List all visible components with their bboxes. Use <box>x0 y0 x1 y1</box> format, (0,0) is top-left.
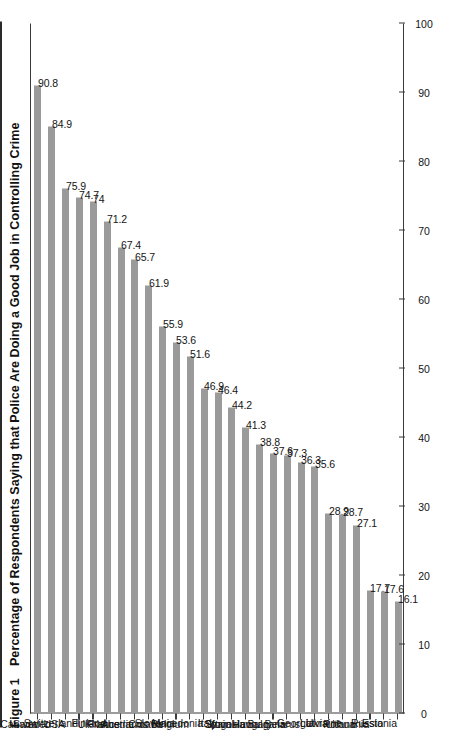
bar-rect <box>62 188 69 712</box>
bar-rect <box>173 342 180 712</box>
bars-layer: 90.884.975.974.77471.267.465.761.955.953… <box>31 23 403 712</box>
bar-estonia: 16.1 <box>395 22 402 712</box>
bar-rect <box>284 455 291 712</box>
bar-value-label: 16.1 <box>398 592 418 604</box>
bar-rect <box>159 326 166 712</box>
figure-caption: Percentage of Respondents Saying that Po… <box>8 122 22 666</box>
bar-finland: 71.2 <box>104 22 111 712</box>
bar-rect <box>353 525 360 712</box>
bar-slovakia: 41.3 <box>242 22 249 712</box>
bar-latvia: 28.9 <box>325 22 332 712</box>
bar-rect <box>395 601 402 712</box>
bar-spain: 44.2 <box>228 22 235 712</box>
bar-rect <box>76 197 83 712</box>
value-tick-label: 70 <box>418 224 430 236</box>
bar-rect <box>131 259 138 712</box>
bar-lithuania: 17.7 <box>367 22 374 712</box>
rotated-figure-canvas: Figure 1Percentage of Respondents Saying… <box>0 0 454 745</box>
bar-macedonia: 46.9 <box>201 22 208 712</box>
bar-rect <box>339 514 346 712</box>
bar-italy: 46.4 <box>215 22 222 712</box>
bar-yugoslavia: 38.8 <box>256 22 263 712</box>
bar-croatia: 55.9 <box>159 22 166 712</box>
bar-rect <box>311 466 318 712</box>
bar-slovenia: 53.6 <box>173 22 180 712</box>
bar-rect <box>187 356 194 712</box>
value-tick-label: 10 <box>418 638 430 650</box>
bar-rect <box>215 392 222 712</box>
bar-uk: 74 <box>90 22 97 712</box>
bar-rect <box>104 221 111 712</box>
value-tick-label: 40 <box>418 431 430 443</box>
bar-usa: 75.9 <box>62 22 69 712</box>
bar-rect <box>242 427 249 712</box>
plot-frame: 90.884.975.974.77471.267.465.761.955.953… <box>30 23 404 713</box>
bar-rect <box>298 462 305 712</box>
bar-georgia: 35.6 <box>311 22 318 712</box>
bar-hungary: 37.6 <box>270 22 277 712</box>
category-label-switzerland: Switzerland <box>24 717 78 729</box>
bar-rect <box>118 247 125 712</box>
bar-france: 67.4 <box>118 22 125 712</box>
bar-rect <box>34 85 41 712</box>
title-divider-rule <box>0 21 2 727</box>
page-title: Figure 1Percentage of Respondents Saying… <box>8 122 22 727</box>
bar-canada: 90.8 <box>34 22 41 712</box>
bar-rect <box>381 591 388 712</box>
value-tick-label: 30 <box>418 500 430 512</box>
bar-russia: 17.6 <box>381 22 388 712</box>
bar-austria: 65.7 <box>131 22 138 712</box>
bar-bulgaria: 37.3 <box>284 22 291 712</box>
bar-ukraine: 28.7 <box>339 22 346 712</box>
value-tick-label: 20 <box>418 569 430 581</box>
bar-netherlands: 61.9 <box>145 22 152 712</box>
category-label-estonia: Estonia <box>362 717 397 729</box>
bar-rect <box>90 201 97 712</box>
bar-rect <box>367 590 374 712</box>
bar-rect <box>228 407 235 712</box>
bar-rect <box>145 285 152 712</box>
value-tick-label: 50 <box>418 362 430 374</box>
bar-belgium: 51.6 <box>187 22 194 712</box>
bar-belarus: 36.3 <box>298 22 305 712</box>
value-tick-label: 90 <box>418 86 430 98</box>
value-tick-label: 80 <box>418 155 430 167</box>
category-label-macedonia: Macedonia <box>152 717 203 729</box>
bar-rect <box>270 453 277 712</box>
value-tick-label: 100 <box>415 17 433 29</box>
value-tick-label: 60 <box>418 293 430 305</box>
value-tick-label: 0 <box>421 707 427 719</box>
bar-sweden: 84.9 <box>48 22 55 712</box>
bar-poland: 27.1 <box>353 22 360 712</box>
bar-switzerland: 74.7 <box>76 22 83 712</box>
bar-rect <box>201 388 208 712</box>
bar-rect <box>48 126 55 712</box>
bar-rect <box>325 513 332 712</box>
figure-root: Figure 1Percentage of Respondents Saying… <box>0 0 454 745</box>
bar-rect <box>256 444 263 712</box>
category-tick <box>397 713 398 719</box>
